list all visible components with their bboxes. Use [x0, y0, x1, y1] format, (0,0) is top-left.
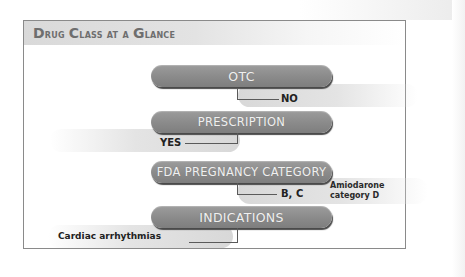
panel-title: Drug Class at a Glance	[33, 25, 175, 42]
otc-connector-horizontal	[237, 99, 279, 100]
pregnancy-category-label: FDA PREGNANCY CATEGORY	[157, 165, 327, 179]
pregnancy-category-pill: FDA PREGNANCY CATEGORY	[151, 161, 332, 183]
title-rest-3: lance	[145, 27, 175, 41]
pregnancy-note-line2: category D	[330, 191, 384, 201]
prescription-label: PRESCRIPTION	[198, 115, 286, 129]
pregnancy-answer: B, C	[281, 188, 303, 200]
prescription-answer: YES	[160, 137, 181, 149]
pregnancy-note-line1: Amiodarone	[330, 181, 384, 191]
pregnancy-note: Amiodarone category D	[330, 181, 384, 201]
pregnancy-connector-horizontal	[237, 194, 277, 195]
panel-header: Drug Class at a Glance	[24, 21, 405, 45]
indications-label: INDICATIONS	[199, 210, 283, 225]
title-cap-1: D	[33, 25, 45, 41]
title-cap-2: C	[69, 25, 79, 41]
prescription-pill: PRESCRIPTION	[151, 111, 332, 133]
indications-answer: Cardiac arrhythmias	[58, 230, 161, 242]
otc-answer-band	[238, 84, 418, 107]
otc-answer: NO	[281, 93, 298, 105]
title-cap-3: G	[133, 25, 145, 41]
indications-connector-vertical	[237, 228, 238, 242]
otc-label: OTC	[228, 69, 254, 84]
indications-pill: INDICATIONS	[151, 206, 332, 228]
prescription-connector-horizontal	[185, 143, 238, 144]
otc-pill: OTC	[151, 65, 332, 87]
page-shade	[300, 0, 465, 20]
indications-connector-horizontal	[189, 242, 238, 243]
title-rest-1: rug	[45, 27, 69, 41]
page-edge	[452, 0, 465, 277]
title-rest-2: lass at a	[79, 27, 133, 41]
